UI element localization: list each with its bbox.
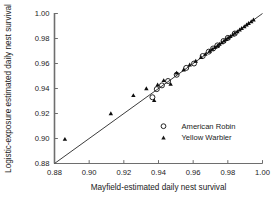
y-axis-tick-labels: 0.880.900.920.940.960.981.00 — [35, 9, 50, 168]
x-tick-label: 0.92 — [116, 168, 131, 177]
y-tick-label: 0.92 — [35, 109, 50, 118]
data-point-filled-triangle — [144, 86, 148, 90]
legend-label: American Robin — [182, 122, 236, 131]
x-tick-label: 1.00 — [255, 168, 270, 177]
legend-label: Yellow Warbler — [182, 133, 233, 142]
y-tick-label: 0.96 — [35, 59, 50, 68]
y-tick-label: 0.90 — [35, 134, 50, 143]
x-tick-label: 0.88 — [47, 168, 62, 177]
y-tick-label: 0.98 — [35, 34, 50, 43]
x-tick-label: 0.90 — [82, 168, 97, 177]
y-tick-label: 1.00 — [35, 9, 50, 18]
legend-marker-filled-triangle — [161, 136, 165, 140]
data-point-open-circle — [159, 83, 164, 88]
chart-figure: 0.880.900.920.940.960.981.00 0.880.900.9… — [0, 0, 274, 205]
x-tick-label: 0.98 — [220, 168, 235, 177]
y-tick-label: 0.94 — [35, 84, 50, 93]
x-tick-label: 0.96 — [186, 168, 201, 177]
data-point-filled-triangle — [168, 82, 172, 86]
data-point-filled-triangle — [251, 18, 255, 22]
legend: American RobinYellow Warbler — [161, 122, 235, 143]
data-point-open-circle — [154, 87, 159, 92]
data-point-open-circle — [166, 79, 171, 84]
data-point-filled-triangle — [109, 111, 113, 115]
scatter-plot-canvas: 0.880.900.920.940.960.981.00 0.880.900.9… — [0, 0, 274, 205]
x-axis-tick-labels: 0.880.900.920.940.960.981.00 — [47, 168, 270, 177]
x-axis-title: Mayfield-estimated daily nest survival — [91, 183, 227, 192]
data-point-filled-triangle — [131, 93, 135, 97]
y-tick-label: 0.88 — [35, 159, 50, 168]
data-point-filled-triangle — [63, 137, 67, 141]
x-tick-label: 0.94 — [151, 168, 166, 177]
legend-marker-open-circle — [161, 124, 166, 129]
y-axis-title: Logistic-exposure estimated daily nest s… — [4, 4, 13, 173]
